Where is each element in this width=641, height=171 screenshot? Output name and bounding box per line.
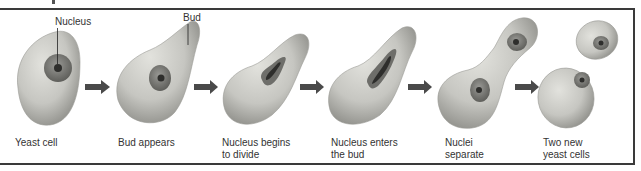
arrow-1-icon [85,80,110,94]
stage-3-nucleus-divides [223,34,309,124]
stage-4-nucleus-enters-bud [329,27,416,124]
arrow-5-icon [515,80,539,94]
stage-1-yeast-cell [17,28,80,125]
stage-4-caption: Nucleus enters the bud [331,137,398,161]
stage-3-caption: Nucleus begins to divide [222,137,290,161]
arrow-3-icon [300,80,324,94]
arrow-4-icon [408,80,432,94]
stage-6-caption: Two new yeast cells [543,137,590,161]
stage-6-two-new-cells [533,15,623,132]
arrow-2-icon [194,80,218,94]
stage-2-bud-appears [117,21,200,123]
nucleus-callout-label: Nucleus [55,16,91,28]
stage-2-caption: Bud appears [118,137,175,149]
bud-callout-label: Bud [183,12,201,24]
stage-1-caption: Yeast cell [15,137,57,149]
stage-5-caption: Nuclei separate [445,137,484,161]
stage-5-nuclei-separate [438,18,538,128]
